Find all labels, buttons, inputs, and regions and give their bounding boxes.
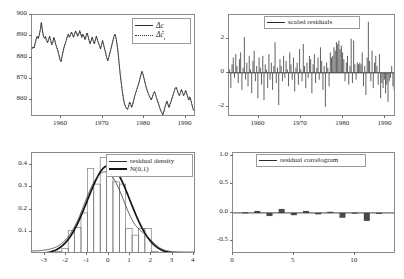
x-tick-mark — [150, 252, 151, 255]
y-tick-label: 860 — [1, 95, 27, 102]
y-tick-label: -0.5 — [202, 236, 228, 243]
y-tick-mark — [226, 106, 229, 107]
y-tick-mark — [226, 72, 229, 73]
y-tick-mark — [29, 78, 32, 79]
x-tick-mark — [129, 252, 130, 255]
plot-area-residual-correlogram — [232, 152, 395, 253]
legend-entry-scaled-residuals: scaled residuals — [267, 19, 356, 26]
x-tick-mark — [102, 115, 103, 118]
y-tick-mark — [29, 99, 32, 100]
x-tick-mark — [44, 252, 45, 255]
legend-key-dotted-icon — [135, 33, 153, 38]
x-tick-label: 1970 — [284, 120, 316, 127]
x-tick-label: 10 — [338, 257, 370, 264]
x-tick-mark — [354, 252, 355, 255]
x-tick-mark — [258, 115, 259, 118]
x-tick-mark — [300, 115, 301, 118]
legend-label-fitted-sub: t — [164, 35, 165, 40]
y-tick-label: 900 — [1, 10, 27, 17]
legend-label-actual: Δc — [156, 22, 164, 30]
x-tick-label: 1990 — [169, 120, 201, 127]
x-tick-mark — [232, 252, 233, 255]
legend-entry-normal: N(0,1) — [109, 166, 189, 173]
legend-label-residual-correlogram: residual correlogram — [280, 157, 338, 164]
panel-scaled-residuals: -202 1960197019801990 scaled residuals — [202, 0, 404, 140]
scaled-residual-spikes — [229, 15, 395, 116]
y-tick-mark — [230, 155, 233, 156]
y-tick-label: 0.4 — [1, 160, 27, 167]
x-tick-label: 1960 — [242, 120, 274, 127]
y-tick-mark — [230, 183, 233, 184]
panel-residual-correlogram: 1.00.50.0-0.5 0510 residual correlogram — [202, 140, 404, 279]
y-tick-mark — [230, 212, 233, 213]
correlogram-bars — [233, 153, 395, 253]
y-tick-label: 1.0 — [202, 151, 228, 158]
x-tick-label: 5 — [277, 257, 309, 264]
y-tick-mark — [29, 186, 32, 187]
legend-residual-correlogram: residual correlogram — [256, 154, 366, 167]
legend-entry-actual: Δc — [135, 22, 187, 30]
legend-label-scaled-residuals: scaled residuals — [288, 19, 332, 26]
x-tick-mark — [86, 252, 87, 255]
x-tick-label: 1980 — [326, 120, 358, 127]
x-tick-label: 1990 — [368, 120, 400, 127]
x-tick-mark — [384, 115, 385, 118]
x-tick-label: 1960 — [44, 120, 76, 127]
y-tick-mark — [29, 231, 32, 232]
legend-key-solid-icon — [259, 158, 277, 163]
y-tick-label: 0.3 — [1, 182, 27, 189]
y-tick-label: 2 — [198, 34, 224, 41]
y-tick-mark — [29, 57, 32, 58]
x-tick-mark — [172, 252, 173, 255]
legend-key-solid-icon — [109, 159, 127, 164]
y-tick-mark — [29, 35, 32, 36]
legend-key-solid-icon — [135, 23, 153, 28]
legend-scaled-residuals: scaled residuals — [264, 16, 360, 29]
y-tick-label: -2 — [198, 102, 224, 109]
x-tick-mark — [193, 252, 194, 255]
panel-residual-density: 0.10.20.30.4 -3-2-101234 residual densit… — [0, 140, 202, 279]
y-tick-label: 890 — [1, 31, 27, 38]
legend-actual-vs-fitted: Δc Δĉt — [132, 18, 191, 44]
y-tick-mark — [29, 14, 32, 15]
legend-key-solid-icon — [267, 20, 285, 25]
legend-label-residual-density: residual density — [130, 158, 174, 165]
x-tick-mark — [65, 252, 66, 255]
x-tick-mark — [143, 115, 144, 118]
x-tick-mark — [60, 115, 61, 118]
legend-key-thick-icon — [109, 167, 127, 172]
x-tick-mark — [342, 115, 343, 118]
y-tick-mark — [29, 209, 32, 210]
legend-entry-residual-correlogram: residual correlogram — [259, 157, 362, 164]
legend-entry-fitted: Δĉt — [135, 31, 187, 41]
plot-area-scaled-residuals — [228, 14, 395, 116]
y-tick-mark — [226, 38, 229, 39]
legend-entry-residual-density: residual density — [109, 158, 189, 165]
x-tick-label: 1970 — [86, 120, 118, 127]
legend-label-fitted: Δĉt — [156, 31, 165, 41]
legend-label-fitted-text: Δĉ — [156, 30, 164, 39]
y-tick-label: 0.5 — [202, 179, 228, 186]
x-tick-mark — [108, 252, 109, 255]
x-tick-label: 1980 — [127, 120, 159, 127]
x-tick-mark — [293, 252, 294, 255]
y-tick-label: 0.2 — [1, 205, 27, 212]
panel-actual-vs-fitted: 860870880890900 1960197019801990 Δc Δĉt — [0, 0, 202, 140]
y-tick-label: 0.1 — [1, 227, 27, 234]
y-tick-mark — [230, 240, 233, 241]
y-tick-label: 870 — [1, 74, 27, 81]
y-tick-mark — [29, 164, 32, 165]
legend-label-normal: N(0,1) — [130, 166, 148, 173]
y-tick-label: 0.0 — [202, 208, 228, 215]
y-tick-label: 0 — [198, 68, 224, 75]
x-tick-label: 0 — [216, 257, 248, 264]
x-tick-mark — [185, 115, 186, 118]
diagnostics-figure: 860870880890900 1960197019801990 Δc Δĉt … — [0, 0, 404, 279]
y-tick-label: 880 — [1, 53, 27, 60]
legend-residual-density: residual density N(0,1) — [106, 154, 193, 177]
